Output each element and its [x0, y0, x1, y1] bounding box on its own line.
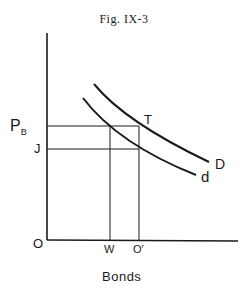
label-j: J [34, 141, 41, 156]
label-o-prime: O′ [133, 243, 144, 255]
x-axis-label: Bonds [102, 269, 141, 284]
label-origin: O [33, 236, 43, 251]
label-d: d [201, 168, 209, 185]
label-D: D [215, 156, 225, 172]
y-axis-label: PB [10, 117, 27, 137]
label-w: W [104, 243, 114, 255]
x-axis [47, 240, 238, 241]
label-t: T [144, 112, 152, 127]
